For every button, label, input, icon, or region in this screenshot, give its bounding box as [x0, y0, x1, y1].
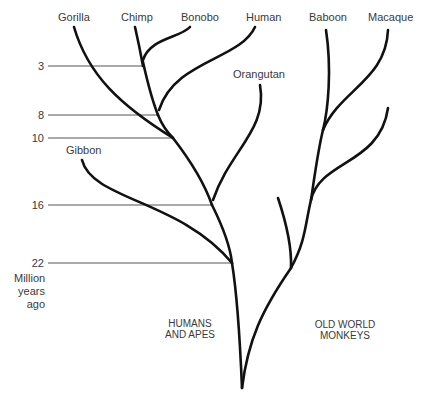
tick-8: 8 [14, 109, 44, 121]
tick-16: 16 [14, 199, 44, 211]
tick-22: 22 [14, 257, 44, 269]
group-old-world-line1: OLD WORLD [300, 319, 390, 330]
label-orangutan: Orangutan [233, 68, 285, 80]
branch-owm-short [278, 198, 291, 268]
branch-ape-root-stem [232, 263, 242, 388]
axis-unit-years: years [14, 285, 45, 297]
branch-macaque [323, 30, 388, 130]
branch-chimp-bonobo-stem [143, 62, 158, 115]
branch-owm-third [311, 108, 388, 200]
label-chimp: Chimp [121, 11, 153, 23]
label-gorilla: Gorilla [58, 11, 90, 23]
branch-monkey-stem-upper [311, 130, 323, 200]
group-old-world-line2: MONKEYS [300, 330, 390, 341]
label-human: Human [246, 11, 281, 23]
branch-monkey-root-stem [242, 268, 291, 388]
branch-baboon [323, 30, 329, 130]
axis-unit-million: Million [14, 272, 45, 284]
tick-10: 10 [14, 132, 44, 144]
group-humans-apes-line2: AND APES [150, 329, 230, 340]
branch-orangutan [213, 85, 261, 200]
label-gibbon: Gibbon [66, 144, 101, 156]
group-label-humans-apes: HUMANS AND APES [150, 318, 230, 340]
branch-monkey-stem-middle [291, 200, 311, 268]
group-label-old-world-monkeys: OLD WORLD MONKEYS [300, 319, 390, 341]
branch-stem-10-16 [173, 138, 212, 205]
branch-stem-16-22 [212, 205, 232, 263]
label-macaque: Macaque [368, 11, 413, 23]
branch-gibbon [82, 160, 232, 263]
label-baboon: Baboon [309, 11, 347, 23]
label-bonobo: Bonobo [181, 11, 219, 23]
tick-3: 3 [14, 60, 44, 72]
axis-unit-ago: ago [14, 298, 45, 310]
branch-bonobo [143, 27, 190, 60]
group-humans-apes-line1: HUMANS [150, 318, 230, 329]
